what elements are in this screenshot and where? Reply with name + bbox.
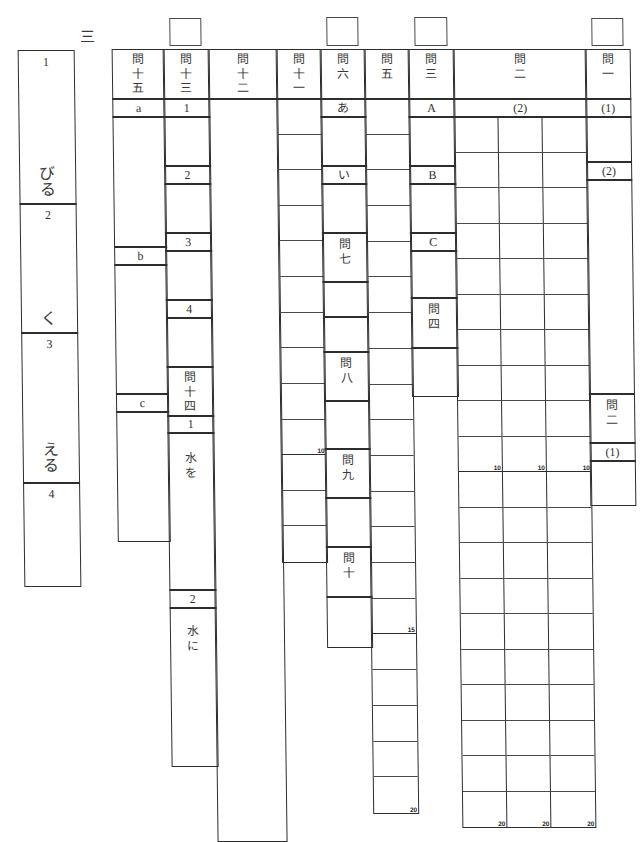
score-box-4	[591, 18, 623, 46]
header-q8: 問八	[323, 351, 369, 402]
q3-label-b: B	[409, 165, 456, 185]
answer-cell	[370, 456, 414, 492]
q3-answer-c	[410, 250, 457, 299]
section-label: 三	[79, 27, 94, 47]
header-q2: 問二	[453, 49, 587, 100]
header-q15: 問十五	[112, 49, 165, 100]
character-count-mark: 10	[583, 464, 590, 471]
q12-answer	[208, 98, 287, 842]
q13-answer-3	[165, 250, 212, 301]
answer-cell	[367, 278, 411, 314]
header-text: 問十	[343, 551, 355, 580]
answer-cell	[499, 153, 543, 189]
answer-cell: 20	[551, 792, 595, 828]
q2-answer-grid: 101010202020	[453, 116, 595, 828]
q8-answer	[324, 400, 370, 450]
answer-cell	[462, 721, 506, 757]
answer-cell	[507, 756, 551, 792]
answer-cell	[455, 188, 499, 224]
answer-cell	[546, 366, 590, 402]
score-box-2	[326, 17, 358, 46]
character-count-mark: 20	[498, 820, 505, 827]
answer-cell	[370, 492, 414, 528]
q15-answer-c	[116, 411, 170, 542]
answer-cell	[458, 366, 502, 402]
header-q9: 問九	[325, 448, 371, 499]
item-number: 3	[46, 337, 52, 351]
answer-cell	[279, 241, 323, 277]
answer-cell	[548, 579, 592, 615]
answer-cell	[371, 563, 415, 599]
next-q2-label-1: (1)	[590, 442, 636, 462]
score-box-1	[169, 18, 201, 46]
answer-cell	[372, 635, 416, 671]
answer-cell	[505, 650, 549, 686]
answer-cell	[463, 756, 507, 792]
q14-prompt-2: 水に	[187, 624, 199, 653]
q6-answer-a	[320, 116, 366, 167]
answer-cell	[543, 188, 587, 224]
q15-label-b: b	[114, 246, 167, 266]
header-q12: 問十二	[208, 49, 278, 100]
answer-cell	[542, 117, 586, 153]
q6-label-a: あ	[320, 98, 366, 118]
okurigana: く	[41, 311, 57, 327]
header-next-q1: 問一	[585, 49, 631, 100]
q7-answer-2	[323, 316, 369, 353]
header-q14: 問十四	[167, 366, 214, 417]
q13-label-4: 4	[166, 299, 213, 319]
answer-cell	[280, 313, 324, 349]
score-box-3	[414, 17, 447, 46]
answer-cell: 15	[372, 599, 416, 635]
header-text: 問二	[606, 398, 618, 427]
header-q3: 問三	[408, 49, 455, 100]
next-q2-answer-1	[590, 460, 636, 506]
q13-label-1: 1	[163, 98, 210, 118]
item-number: 2	[45, 208, 51, 222]
answer-cell	[499, 188, 543, 224]
header-next-q2: 問二	[589, 393, 635, 444]
answer-cell	[498, 117, 542, 153]
answer-cell	[502, 366, 546, 402]
answer-cell	[461, 650, 505, 686]
q2-sub-label: (2)	[453, 98, 587, 118]
character-count-mark: 20	[410, 806, 417, 813]
answer-cell	[366, 170, 410, 206]
character-count-mark: 10	[317, 447, 324, 454]
q13-answer-4	[166, 317, 213, 368]
q13-answer-2	[164, 183, 211, 234]
q15-label-c: c	[116, 393, 169, 413]
answer-cell	[506, 721, 550, 757]
answer-cell	[454, 117, 498, 153]
answer-cell	[457, 295, 501, 331]
q3-label-a: A	[408, 98, 455, 118]
answer-cell	[544, 224, 588, 260]
answer-cell	[281, 384, 325, 420]
answer-cell	[369, 385, 413, 421]
header-text: 問二	[513, 52, 525, 81]
answer-cell: 20	[507, 792, 551, 828]
answer-cell	[505, 614, 549, 650]
q6-label-i: い	[321, 165, 367, 185]
answer-cell	[547, 508, 591, 544]
answer-cell	[373, 742, 417, 778]
answer-cell	[545, 295, 589, 331]
answer-cell	[500, 224, 544, 260]
header-text: 問四	[428, 302, 440, 331]
header-text: 問五	[380, 52, 392, 81]
answer-cell	[550, 721, 594, 757]
answer-cell	[282, 491, 326, 527]
answer-cell	[460, 543, 504, 579]
answer-cell	[365, 99, 409, 135]
header-q5: 問五	[364, 49, 410, 100]
header-text: 問一	[601, 52, 613, 81]
q6-answer-i	[321, 183, 367, 234]
answer-cell: 10	[546, 437, 590, 473]
q10-answer	[326, 596, 372, 648]
q14-label-2: 2	[169, 589, 216, 609]
okurigana: びる	[39, 166, 55, 198]
answer-cell	[279, 206, 323, 242]
answer-cell	[278, 170, 322, 206]
q11-answer-grid: 10	[276, 98, 327, 563]
answer-cell	[500, 259, 544, 295]
